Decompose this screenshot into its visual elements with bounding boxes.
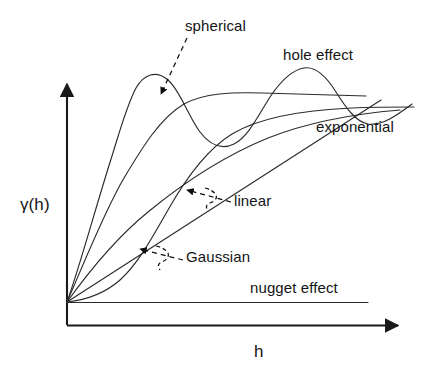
spherical-leader-line xyxy=(161,38,187,94)
label-hole-effect: hole effect xyxy=(283,47,353,62)
label-gaussian: Gaussian xyxy=(186,249,250,264)
variogram-plot-canvas xyxy=(0,0,432,373)
curve-hole-effect xyxy=(67,68,412,302)
label-spherical: spherical xyxy=(185,18,246,33)
label-linear: linear xyxy=(234,193,271,208)
x-axis-label: h xyxy=(254,343,264,360)
y-axis-label: γ(h) xyxy=(20,196,50,213)
variogram-figure: spherical hole effect exponential linear… xyxy=(0,0,432,373)
gaussian-leader-line xyxy=(140,249,183,260)
curves-group xyxy=(67,68,414,303)
label-exponential: exponential xyxy=(316,119,394,134)
label-nugget-effect: nugget effect xyxy=(250,280,338,295)
gaussian-leader-squiggle xyxy=(156,246,168,270)
